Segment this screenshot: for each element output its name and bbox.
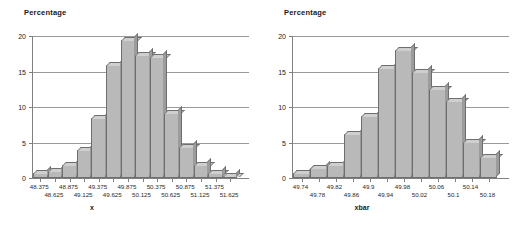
x-axis-tick xyxy=(113,178,114,182)
y-axis-tick xyxy=(289,72,293,73)
x-axis-tick xyxy=(143,178,144,182)
y-axis-tick xyxy=(29,107,33,108)
histogram-bar xyxy=(344,134,361,178)
histogram-bar-top xyxy=(150,54,171,58)
histogram-bar xyxy=(429,89,446,178)
histogram-bar xyxy=(412,72,429,179)
x-axis-tick-label: 49.82 xyxy=(327,183,342,190)
x-axis-tick xyxy=(455,178,456,182)
histogram-bar xyxy=(91,118,106,178)
histogram-pair-figure: Percentage x 0510152048.37548.62548.8754… xyxy=(0,0,521,236)
y-axis-tick-label: 5 xyxy=(268,139,286,146)
y-axis-tick-label: 0 xyxy=(8,175,26,182)
x-axis-tick xyxy=(70,178,71,182)
histogram-bar xyxy=(361,116,378,178)
x-axis-tick-label: 50.625 xyxy=(161,191,180,198)
histogram-bar xyxy=(164,113,179,178)
plot-area-right xyxy=(292,36,509,179)
x-axis-tick-label: 49.98 xyxy=(395,183,410,190)
histogram-bar xyxy=(62,165,77,178)
histogram-bar-side xyxy=(496,150,500,177)
y-axis-tick-label: 10 xyxy=(268,104,286,111)
y-axis-tick-label: 0 xyxy=(268,175,286,182)
x-axis-tick-label: 48.625 xyxy=(44,191,63,198)
histogram-bar xyxy=(395,50,412,178)
y-axis-tick xyxy=(29,36,33,37)
x-axis-tick-label: 50.1 xyxy=(447,191,459,198)
histogram-panel-xbar: Percentage xbar 0510152049.7449.7849.824… xyxy=(260,0,521,236)
x-axis-tick-label: 49.78 xyxy=(310,191,325,198)
histogram-bar xyxy=(378,68,395,178)
x-axis-tick-label: 48.875 xyxy=(59,183,78,190)
y-axis-tick xyxy=(29,143,33,144)
y-axis-tick-label: 5 xyxy=(8,139,26,146)
x-axis-tick-label: 50.02 xyxy=(412,191,427,198)
y-axis-tick xyxy=(29,178,33,179)
x-axis-tick-label: 50.125 xyxy=(132,191,151,198)
x-axis-tick xyxy=(216,178,217,182)
x-axis-tick-label: 51.375 xyxy=(205,183,224,190)
x-axis-tick xyxy=(472,178,473,182)
x-axis-tick-label: 49.625 xyxy=(103,191,122,198)
x-axis-title-left: x xyxy=(90,204,94,211)
x-axis-tick-label: 50.375 xyxy=(147,183,166,190)
x-axis-tick xyxy=(302,178,303,182)
x-axis-tick xyxy=(404,178,405,182)
x-axis-tick-label: 50.14 xyxy=(463,183,478,190)
x-axis-tick xyxy=(84,178,85,182)
plot-area-left xyxy=(32,36,249,179)
gridline xyxy=(293,36,509,37)
histogram-bar-top xyxy=(194,162,215,166)
histogram-bar xyxy=(179,147,194,178)
x-axis-tick xyxy=(336,178,337,182)
x-axis-tick-label: 51.125 xyxy=(190,191,209,198)
histogram-bar xyxy=(310,168,327,178)
y-axis-tick-label: 15 xyxy=(268,68,286,75)
x-axis-tick xyxy=(387,178,388,182)
x-axis-tick-label: 50.06 xyxy=(429,183,444,190)
histogram-bar xyxy=(150,57,165,178)
histogram-bar xyxy=(327,165,344,178)
histogram-bar xyxy=(121,40,136,178)
y-axis-tick xyxy=(289,107,293,108)
x-axis-tick-label: 50.18 xyxy=(480,191,495,198)
x-axis-tick xyxy=(353,178,354,182)
histogram-bar xyxy=(77,150,92,178)
y-axis-tick xyxy=(289,178,293,179)
x-axis-tick xyxy=(421,178,422,182)
x-axis-tick xyxy=(55,178,56,182)
x-axis-tick xyxy=(99,178,100,182)
histogram-bar xyxy=(194,165,209,178)
histogram-bar xyxy=(106,65,121,178)
histogram-bar-top xyxy=(121,37,142,41)
x-axis-tick-label: 50.875 xyxy=(176,183,195,190)
x-axis-tick xyxy=(201,178,202,182)
y-axis-tick-label: 15 xyxy=(8,68,26,75)
histogram-bar xyxy=(480,157,497,178)
y-axis-tick-label: 20 xyxy=(8,33,26,40)
x-axis-tick xyxy=(40,178,41,182)
x-axis-tick-label: 49.94 xyxy=(378,191,393,198)
x-axis-tick-label: 49.375 xyxy=(88,183,107,190)
x-axis-tick xyxy=(186,178,187,182)
x-axis-tick-label: 48.375 xyxy=(30,183,49,190)
histogram-bar xyxy=(446,101,463,178)
histogram-bar xyxy=(463,142,480,178)
y-axis-tick xyxy=(289,143,293,144)
x-axis-tick-label: 49.875 xyxy=(117,183,136,190)
x-axis-tick xyxy=(172,178,173,182)
y-axis-tick-label: 10 xyxy=(8,104,26,111)
y-axis-tick xyxy=(29,72,33,73)
y-axis-tick xyxy=(289,36,293,37)
x-axis-tick xyxy=(128,178,129,182)
histogram-bar xyxy=(48,171,63,178)
x-axis-tick xyxy=(319,178,320,182)
histogram-panel-x: Percentage x 0510152048.37548.62548.8754… xyxy=(0,0,261,236)
x-axis-title-right: xbar xyxy=(355,204,370,211)
x-axis-tick-label: 51.625 xyxy=(220,191,239,198)
y-axis-tick-label: 20 xyxy=(268,33,286,40)
x-axis-tick xyxy=(157,178,158,182)
x-axis-tick xyxy=(489,178,490,182)
x-axis-tick xyxy=(230,178,231,182)
x-axis-tick xyxy=(370,178,371,182)
